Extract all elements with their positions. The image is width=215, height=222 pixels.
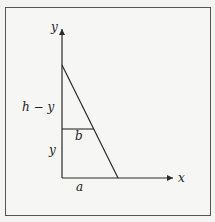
label-h-minus-y: h − y [22,100,54,114]
x-axis-label: x [178,171,185,185]
label-a: a [76,180,83,194]
label-b: b [75,129,83,143]
triangle-diagram: y x h − y y b a [0,0,215,222]
label-y-segment: y [48,143,56,157]
triangle-hypotenuse [62,65,118,178]
y-axis-label: y [50,20,58,34]
